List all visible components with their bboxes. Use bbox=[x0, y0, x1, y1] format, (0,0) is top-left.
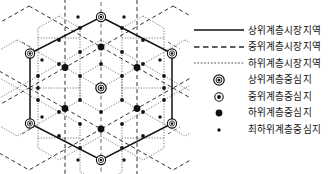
double-ring-dot-icon bbox=[190, 72, 248, 89]
legend-label-low-order-centre: 하위계층중심지 bbox=[248, 108, 312, 118]
legend-row-low-order-centre: 하위계층중심지 bbox=[190, 105, 336, 122]
centre-place-vertex-bottom bbox=[96, 155, 105, 164]
dotted-line-icon bbox=[190, 55, 248, 72]
centre-place-vertex-top-right bbox=[167, 49, 176, 58]
small-dot-icon bbox=[190, 122, 248, 139]
legend-row-low-order-market: 하위계층시장지역 bbox=[190, 55, 336, 72]
legend-row-middle-order-centre: 중위계층중심지 bbox=[190, 88, 336, 105]
central-place-diagram bbox=[0, 0, 190, 174]
legend: 상위계층시장지역 중위계층시장지역 하위계층시장지역 bbox=[190, 22, 336, 138]
centre-place-vertex-top bbox=[96, 12, 105, 21]
dashed-line-icon bbox=[190, 39, 248, 56]
centre-place-center bbox=[96, 83, 106, 93]
legend-label-low-order-market: 하위계층시장지역 bbox=[248, 58, 321, 68]
legend-label-lowest-order-centre: 최하위계층중심지 bbox=[248, 125, 321, 135]
legend-label-high-order-market: 상위계층시장지역 bbox=[248, 25, 321, 35]
legend-label-middle-order-centre: 중위계층중심지 bbox=[248, 92, 312, 102]
middle-order-market-areas bbox=[0, 0, 190, 174]
legend-row-middle-order-market: 중위계층시장지역 bbox=[190, 39, 336, 56]
legend-row-high-order-centre: 상위계층중심지 bbox=[190, 72, 336, 89]
legend-label-middle-order-market: 중위계층시장지역 bbox=[248, 42, 321, 52]
figure-root: 상위계층시장지역 중위계층시장지역 하위계층시장지역 bbox=[0, 0, 336, 174]
legend-row-high-order-market: 상위계층시장지역 bbox=[190, 22, 336, 39]
solid-line-icon bbox=[190, 22, 248, 39]
legend-row-lowest-order-centre: 최하위계층중심지 bbox=[190, 122, 336, 139]
centre-place-vertex-bottom-left bbox=[25, 119, 34, 128]
centre-place-vertex-bottom-right bbox=[167, 119, 176, 128]
ring-dot-icon bbox=[190, 88, 248, 105]
filled-circle-icon bbox=[190, 105, 248, 122]
legend-label-high-order-centre: 상위계층중심지 bbox=[248, 75, 312, 85]
centre-place-vertex-top-left bbox=[25, 49, 34, 58]
